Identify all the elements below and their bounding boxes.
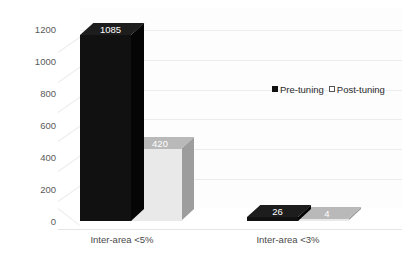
bar-front-face: [298, 219, 349, 221]
bar-value-label: 26: [252, 206, 303, 217]
bar-post-tuning-inter-area-3[interactable]: 4: [298, 219, 348, 221]
y-axis-tick-200: 200: [4, 185, 56, 195]
y-axis-tick-1200: 1200: [4, 25, 56, 35]
legend-swatch-hollow-square-icon: [329, 86, 335, 92]
y-axis-tick-1000: 1000: [4, 57, 56, 67]
legend-label-pre-tuning: Pre-tuning: [280, 84, 324, 95]
x-axis-category-label-2: Inter-area <3%: [228, 234, 348, 246]
y-axis-tick-800: 800: [4, 89, 56, 99]
legend-label-post-tuning: Post-tuning: [337, 84, 385, 95]
bar-value-label: 4: [302, 208, 352, 219]
bar-pre-tuning-inter-area-3[interactable]: 26: [247, 217, 298, 221]
x-axis-category-label-1: Inter-area <5%: [62, 234, 182, 246]
legend-swatch-filled-square-icon: [272, 86, 278, 92]
chart-floor-front-edge: [58, 229, 402, 230]
plot-area: 420 1085 4 26: [58, 8, 402, 230]
bar-pre-tuning-inter-area-5[interactable]: 1085: [80, 35, 131, 221]
bar-side-face: [131, 23, 144, 221]
legend-item-post-tuning[interactable]: Post-tuning: [329, 84, 385, 96]
bar-front-face: [80, 35, 131, 221]
legend-item-pre-tuning[interactable]: Pre-tuning: [272, 84, 324, 96]
bar-value-label: 1085: [85, 24, 136, 35]
y-axis-tick-0: 0: [4, 217, 56, 227]
bar-front-face: [247, 217, 298, 221]
y-axis-tick-600: 600: [4, 121, 56, 131]
bar-side-face: [181, 137, 194, 221]
y-axis-tick-400: 400: [4, 153, 56, 163]
bar-value-label: 420: [135, 138, 185, 149]
y-axis: 1200 1000 800 600 400 200 0: [0, 0, 56, 260]
bar-chart: 1200 1000 800 600 400 200 0: [0, 0, 412, 260]
legend: Pre-tuningPost-tuning: [272, 84, 385, 96]
